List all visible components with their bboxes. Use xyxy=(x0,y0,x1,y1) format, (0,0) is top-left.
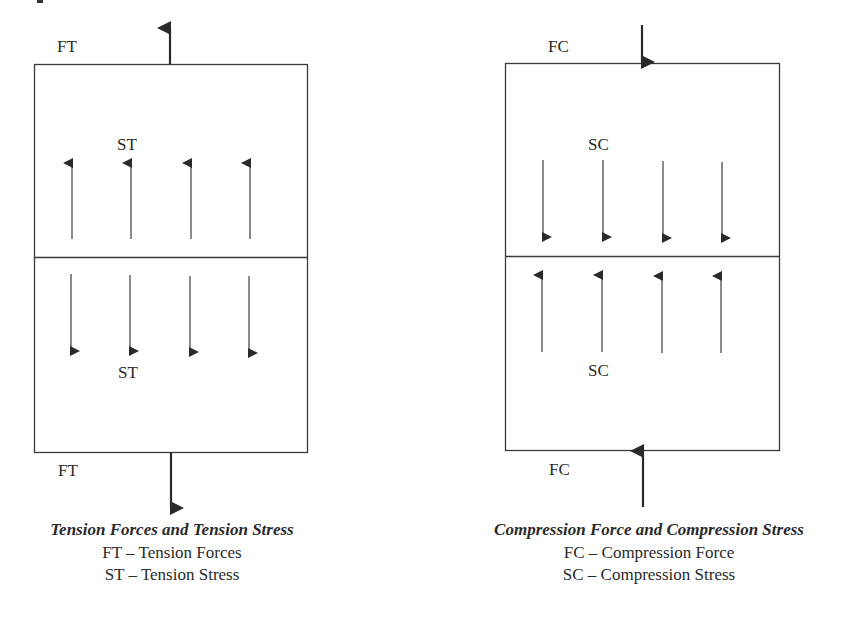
compression-lower-stress-label: SC xyxy=(588,362,609,379)
compression-upper-stress-arrows xyxy=(543,160,722,238)
tension-specimen-box xyxy=(35,65,308,453)
compression-legend-stress: SC – Compression Stress xyxy=(444,564,854,586)
compression-panel xyxy=(506,25,780,507)
tension-lower-stress-label: ST xyxy=(118,364,138,381)
tension-caption: Tension Forces and Tension Stress FT – T… xyxy=(22,518,322,586)
tension-top-force-label: FT xyxy=(57,38,77,55)
compression-upper-stress-label: SC xyxy=(588,136,609,153)
compression-legend-force: FC – Compression Force xyxy=(444,542,854,564)
tension-caption-title: Tension Forces and Tension Stress xyxy=(22,518,322,542)
compression-caption: Compression Force and Compression Stress… xyxy=(444,518,854,586)
tension-bottom-force-label: FT xyxy=(58,462,78,479)
tension-lower-stress-arrows xyxy=(71,274,249,353)
tension-panel xyxy=(35,28,308,508)
compression-top-force-label: FC xyxy=(548,38,569,55)
compression-bottom-force-label: FC xyxy=(549,461,570,478)
compression-caption-title: Compression Force and Compression Stress xyxy=(444,518,854,542)
compression-lower-stress-arrows xyxy=(542,275,721,353)
tension-legend-force: FT – Tension Forces xyxy=(22,542,322,564)
tension-legend-stress: ST – Tension Stress xyxy=(22,564,322,586)
tension-upper-stress-label: ST xyxy=(117,136,137,153)
tension-upper-stress-arrows xyxy=(72,163,250,239)
